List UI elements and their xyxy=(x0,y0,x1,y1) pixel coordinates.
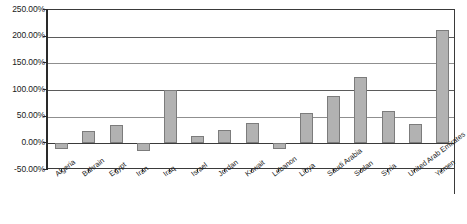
x-axis-tick-mark xyxy=(197,169,198,172)
bar-jordan xyxy=(218,130,231,143)
bar-egypt xyxy=(110,125,123,143)
x-axis-tick-mark xyxy=(278,169,279,172)
bar-yemen xyxy=(436,30,449,143)
x-axis-tick-mark xyxy=(360,169,361,172)
bar-algeria xyxy=(55,143,68,148)
bar-israel xyxy=(191,136,204,143)
y-axis-line xyxy=(46,9,48,170)
y-axis-tick-label: 250.00% xyxy=(0,5,45,14)
x-axis-tick-mark xyxy=(333,169,334,172)
x-axis-tick-mark xyxy=(251,169,252,172)
x-axis-tick-mark xyxy=(142,169,143,172)
bar-lebanon xyxy=(273,143,286,149)
y-axis-tick-label: 100.00% xyxy=(0,85,45,94)
bar-kuwait xyxy=(246,123,259,143)
gridline xyxy=(48,90,454,91)
y-axis-tick-label: 0.00% xyxy=(0,138,45,147)
y-axis-tick-label: 200.00% xyxy=(0,31,45,40)
bar-iran xyxy=(137,143,150,150)
gridline xyxy=(48,63,454,64)
bar-iraq xyxy=(164,90,177,143)
x-axis-tick-mark xyxy=(441,169,442,172)
x-axis-tick-mark xyxy=(387,169,388,172)
x-axis-tick-mark xyxy=(115,169,116,172)
x-axis-tick-mark xyxy=(88,169,89,172)
bar-united-arab-emirates xyxy=(409,124,422,143)
x-axis-tick-mark xyxy=(61,169,62,172)
gridline xyxy=(48,37,454,38)
bar-libya xyxy=(300,113,313,143)
bar-bahrain xyxy=(82,131,95,143)
y-axis-tick-label: -50.00% xyxy=(0,165,45,174)
x-axis-tick-mark xyxy=(224,169,225,172)
bar-sudan xyxy=(354,77,367,143)
y-axis-tick-labels: 250.00%200.00%150.00%100.00%50.00%0.00%-… xyxy=(0,0,45,224)
y-axis-tick-label: 150.00% xyxy=(0,58,45,67)
bar-saudi-arabia xyxy=(327,96,340,143)
plot-area xyxy=(47,9,455,169)
x-axis-tick-mark xyxy=(169,169,170,172)
plot-right-edge xyxy=(454,9,455,194)
y-axis-tick-label: 50.00% xyxy=(0,111,45,120)
x-axis-tick-mark xyxy=(414,169,415,172)
x-axis-tick-mark xyxy=(305,169,306,172)
bar-syria xyxy=(382,111,395,144)
